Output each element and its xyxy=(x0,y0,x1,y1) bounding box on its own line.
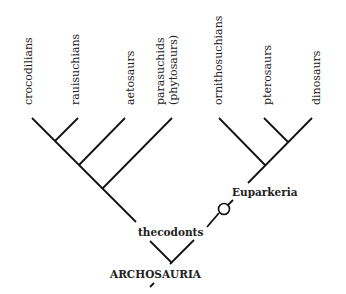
cladogram: crocodilians rauisuchians aetosaurs para… xyxy=(0,0,346,294)
node-label-euparkeria: Euparkeria xyxy=(232,186,298,198)
right-clade-branches xyxy=(219,118,312,183)
taxon-label-ornithosuchians: ornithosuchians xyxy=(212,15,225,105)
taxon-label-pterosaurs: pterosaurs xyxy=(261,45,274,105)
node-label-thecodonts: thecodonts xyxy=(138,226,203,238)
taxon-label-crocodilians: crocodilians xyxy=(22,37,35,105)
taxon-label-phytosaurs: (phytosaurs) xyxy=(167,35,180,105)
node-label-archosauria: ARCHOSAURIA xyxy=(109,268,202,280)
left-clade-branches xyxy=(32,118,172,222)
euparkeria-stem xyxy=(207,200,233,227)
taxon-label-dinosaurs: dinosaurs xyxy=(310,50,323,105)
taxon-label-rauisuchians: rauisuchians xyxy=(69,33,82,105)
open-circle-marker-icon xyxy=(219,204,230,215)
taxon-label-aetosaurs: aetosaurs xyxy=(124,50,137,105)
taxon-label-parasuchids: parasuchids xyxy=(154,37,167,105)
